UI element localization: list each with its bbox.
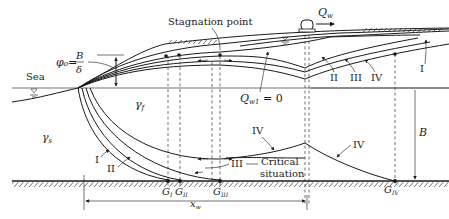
g4-point [393, 179, 397, 183]
label-iv-top: IV [371, 72, 383, 83]
b-label: B [418, 126, 427, 139]
g-iii-label: GIII [213, 186, 229, 198]
xw-label: xw [190, 198, 202, 210]
water-table-curves [78, 29, 449, 88]
ground-hatch-top-left [168, 40, 218, 44]
phi-leader [88, 62, 114, 68]
iii-bottom-leader [205, 164, 229, 168]
label-iv-bottom-right: IV [353, 139, 365, 150]
phi-label: φ₀= [56, 56, 77, 69]
i-bottom-leader [101, 150, 109, 157]
phi-numerator: B [75, 50, 83, 61]
i-top-leader [425, 40, 426, 64]
label-iv-bottom-left: IV [252, 125, 264, 136]
label-iii-bottom: III [231, 158, 243, 169]
phi-denominator: δ [76, 64, 82, 75]
iv-bottom-right-leader [337, 145, 351, 157]
toe-point-dot-1 [164, 54, 168, 58]
label-ii-top: II [330, 72, 338, 83]
g3-point [218, 179, 222, 183]
sea-water-symbol [30, 89, 38, 97]
iv-peak-dot [393, 52, 397, 56]
g1-point [166, 179, 170, 183]
qw1-label: Qw1 = 0 [240, 92, 283, 106]
g-ii-label: GII [175, 186, 188, 198]
label-iii-top: III [350, 72, 362, 83]
iv-bottom-left-leader [262, 137, 274, 150]
flow-direction-arrows [195, 60, 232, 173]
label-ii-bottom: II [107, 163, 115, 174]
sea-label: Sea [26, 71, 45, 82]
qw-label: Qw [318, 6, 333, 20]
sea-floor-curve [12, 88, 78, 102]
label-i-top: I [420, 63, 424, 74]
situation-label: situation [260, 168, 305, 179]
coastal-aquifer-diagram: Sea φ₀= B δ Stagnation point Qw [0, 0, 449, 219]
label-i-bottom: I [95, 154, 99, 165]
g-i-label: GI [162, 186, 173, 198]
g2-point [178, 179, 182, 183]
critical-label: Critical [261, 156, 299, 167]
iv-top-leader [365, 60, 375, 72]
gamma-f-label: γf [135, 98, 146, 112]
stagnation-point-label: Stagnation point [168, 16, 253, 27]
gamma-s-label: γs [42, 131, 53, 145]
